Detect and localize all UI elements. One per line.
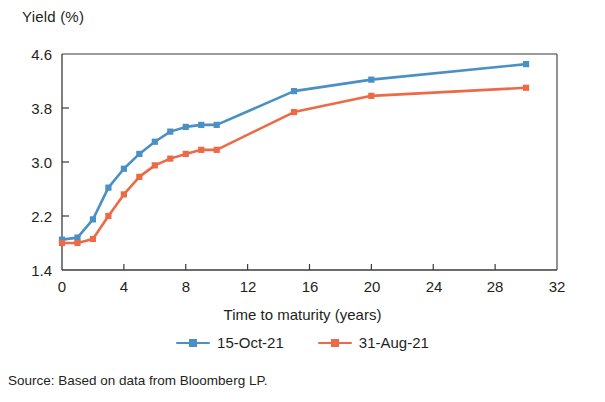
legend-line-icon-series-2 [318,337,352,349]
x-axis-title: Time to maturity (years) [0,306,605,323]
data-point-marker [105,213,111,219]
data-point-marker [152,139,158,145]
legend-label-series-1: 15-Oct-21 [217,334,284,351]
data-point-marker [90,216,96,222]
legend-item-series-2[interactable]: 31-Aug-21 [318,334,429,351]
data-point-marker [198,122,204,128]
legend-label-series-2: 31-Aug-21 [359,334,429,351]
data-point-marker [167,129,173,135]
data-point-marker [59,240,65,246]
data-point-marker [368,93,374,99]
data-point-marker [152,162,158,168]
data-point-marker [105,185,111,191]
legend-line-icon-series-1 [176,337,210,349]
data-point-marker [90,236,96,242]
data-point-marker [214,147,220,153]
data-point-marker [214,122,220,128]
data-point-marker [368,77,374,83]
data-point-marker [183,124,189,130]
data-point-marker [291,88,297,94]
data-point-marker [291,109,297,115]
data-point-marker [74,235,80,241]
axis-lines [62,54,557,270]
source-note: Source: Based on data from Bloomberg LP. [8,373,267,388]
data-point-marker [198,147,204,153]
data-point-marker [74,240,80,246]
data-point-marker [136,151,142,157]
data-point-marker [523,85,529,91]
chart-legend: 15-Oct-21 31-Aug-21 [0,334,605,351]
data-point-marker [121,166,127,172]
data-point-marker [136,174,142,180]
data-point-marker [183,151,189,157]
legend-item-series-1[interactable]: 15-Oct-21 [176,334,284,351]
data-point-marker [121,191,127,197]
data-point-marker [523,61,529,67]
data-series-layer [59,61,529,246]
data-point-marker [167,156,173,162]
chart-figure: Yield (%) 4.6 3.8 3.0 2.2 1.4 0 4 8 12 1… [0,0,605,402]
